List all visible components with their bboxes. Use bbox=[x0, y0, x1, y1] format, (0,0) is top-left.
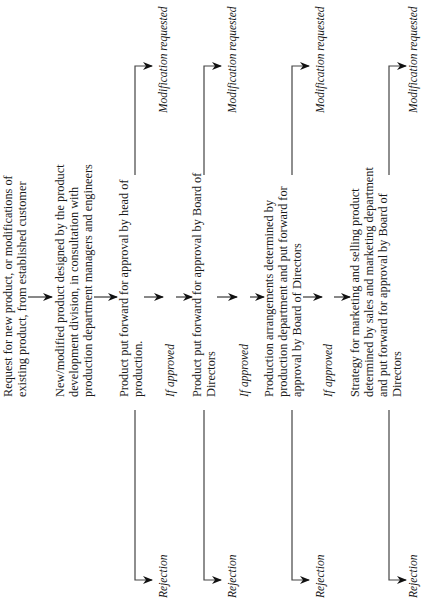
step-text-line: Product put forward for approval by head… bbox=[117, 179, 131, 397]
rejection-label-4: Rejection bbox=[406, 555, 420, 598]
step-text-line: existing product, from established custo… bbox=[15, 175, 29, 397]
flowchart-page: Request for new product, or modification… bbox=[0, 0, 444, 613]
step-text-line: Directors bbox=[204, 173, 218, 397]
step-text-line: determined by sales and marketing depart… bbox=[362, 167, 376, 397]
step-text-line: Production arrangements determined by bbox=[262, 186, 276, 397]
step-marketing-strategy: Strategy for marketing and selling produ… bbox=[348, 167, 404, 397]
step-text-line: development division, in consultation wi… bbox=[67, 164, 81, 397]
condition-if-approved-3: If approved bbox=[321, 344, 335, 397]
step-product-design: New/modified product designed by the pro… bbox=[53, 164, 95, 397]
rejection-label-1: Rejection bbox=[156, 555, 170, 598]
step-customer-request: Request for new product, or modification… bbox=[1, 175, 29, 397]
step-head-of-production-approval: Product put forward for approval by head… bbox=[117, 179, 145, 397]
step-text-line: New/modified product designed by the pro… bbox=[53, 164, 67, 397]
step-text-line: approval by Board of Directors bbox=[290, 186, 304, 397]
step-text-line: production. bbox=[131, 179, 145, 397]
step-production-arrangements: Production arrangements determined by pr… bbox=[262, 186, 304, 397]
rejection-label-3: Rejection bbox=[313, 555, 327, 598]
step-board-approval: Product put forward for approval by Boar… bbox=[190, 173, 218, 397]
step-text-line: and put forward for approval by Board of bbox=[376, 167, 390, 397]
modification-requested-label-3: Modification requested bbox=[313, 6, 327, 113]
step-text-line: production department managers and engin… bbox=[81, 164, 95, 397]
modification-requested-label-2: Modification requested bbox=[225, 6, 239, 113]
step-text-line: Strategy for marketing and selling produ… bbox=[348, 167, 362, 397]
step-text-line: Request for new product, or modification… bbox=[1, 175, 15, 397]
step-text-line: Product put forward for approval by Boar… bbox=[190, 173, 204, 397]
modification-requested-label-4: Modification requested bbox=[406, 6, 420, 113]
condition-if-approved-1: If approved bbox=[163, 344, 177, 397]
modification-requested-label-1: Modification requested bbox=[156, 6, 170, 113]
step-text-line: Directors bbox=[390, 167, 404, 397]
rejection-label-2: Rejection bbox=[225, 555, 239, 598]
step-text-line: production department and put forward fo… bbox=[276, 186, 290, 397]
product-approval-flowchart: Request for new product, or modification… bbox=[0, 0, 444, 613]
condition-if-approved-2: If approved bbox=[237, 344, 251, 397]
